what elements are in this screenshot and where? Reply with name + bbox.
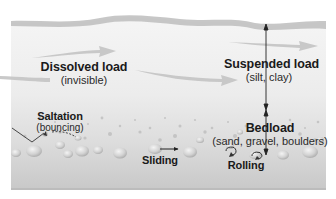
diagram-illustration — [0, 0, 336, 199]
suspended-load-sub: (silt, clay) — [224, 72, 314, 83]
rolling-label: Rolling — [226, 160, 266, 171]
bedload-title: Bedload — [210, 122, 330, 135]
dissolved-load-title: Dissolved load — [34, 61, 134, 74]
dissolved-load-label: Dissolved load (invisible) — [34, 61, 134, 86]
bedload-sub: (sand, gravel, boulders) — [210, 136, 330, 147]
saltation-title: Saltation — [30, 111, 90, 122]
sediment-transport-diagram: Dissolved load (invisible) Suspended loa… — [0, 0, 336, 199]
suspended-load-label: Suspended load (silt, clay) — [224, 58, 314, 83]
suspended-load-title: Suspended load — [224, 58, 314, 71]
bedload-label: Bedload (sand, gravel, boulders) — [210, 122, 330, 147]
saltation-label: Saltation (bouncing) — [30, 111, 90, 133]
dissolved-load-sub: (invisible) — [34, 75, 134, 86]
sliding-title: Sliding — [140, 155, 180, 166]
sliding-label: Sliding — [140, 155, 180, 166]
saltation-sub: (bouncing) — [30, 123, 90, 133]
rolling-title: Rolling — [226, 160, 266, 171]
